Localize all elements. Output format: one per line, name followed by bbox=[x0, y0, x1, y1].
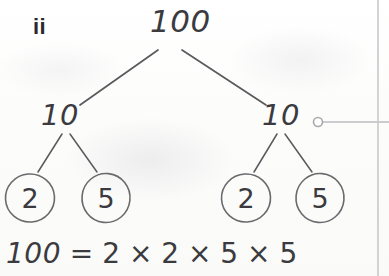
tree-node-root-100: 100 bbox=[150, 6, 211, 37]
branch-left10-to-leaf-5 bbox=[70, 134, 97, 172]
branch-right10-to-leaf-2 bbox=[254, 134, 277, 172]
factorisation-equation: 100 = 2 × 2 × 5 × 5 bbox=[6, 240, 297, 268]
worksheet-scan: ii 100 10 10 2 5 2 5 100 = 2 × 2 × 5 × 5 bbox=[0, 0, 389, 276]
branch-root-to-left10 bbox=[80, 50, 158, 105]
tree-leaf-5-left: 5 bbox=[82, 185, 130, 212]
equation-left-value: 100 bbox=[6, 237, 61, 270]
tree-node-right-10: 10 bbox=[262, 101, 300, 130]
callout-anchor-dot[interactable] bbox=[314, 118, 323, 127]
equation-relation: = bbox=[61, 237, 102, 270]
part-label: ii bbox=[33, 14, 46, 40]
branch-left10-to-leaf-2 bbox=[38, 134, 62, 172]
tree-leaf-5-right: 5 bbox=[296, 185, 344, 212]
branch-right10-to-leaf-5 bbox=[285, 134, 312, 172]
equation-right-expression: 2 × 2 × 5 × 5 bbox=[102, 237, 297, 270]
tree-node-left-10: 10 bbox=[41, 101, 79, 130]
tree-leaf-2-left: 2 bbox=[6, 185, 54, 212]
tree-leaf-2-right: 2 bbox=[222, 185, 270, 212]
branch-root-to-right10 bbox=[182, 50, 266, 105]
factor-tree-strokes bbox=[0, 0, 389, 276]
